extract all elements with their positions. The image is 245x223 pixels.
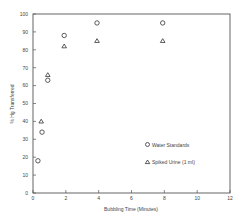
y-tick-label: 70 — [22, 65, 28, 71]
y-tick-label: 0 — [25, 190, 28, 196]
plot-frame — [33, 14, 230, 193]
x-tick-label: 12 — [227, 195, 233, 201]
triangle-marker-icon — [160, 39, 165, 43]
data-points — [36, 21, 165, 163]
x-tick-label: 4 — [97, 195, 100, 201]
circle-marker-icon — [160, 21, 164, 25]
x-axis-title: Bubbling Time (Minutes) — [104, 206, 158, 212]
x-tick-label: 10 — [194, 195, 200, 201]
y-axis-ticks: 0102030405060708090100 — [20, 11, 36, 196]
circle-marker-icon — [46, 78, 50, 82]
y-tick-label: 60 — [22, 82, 28, 88]
y-tick-label: 10 — [22, 172, 28, 178]
legend-label-spiked-urine: Spiked Urine (1 ml) — [152, 159, 195, 165]
circle-marker-icon — [95, 21, 99, 25]
circle-marker-icon — [40, 130, 44, 134]
legend-item-water-standards: Water Standards — [146, 142, 190, 148]
circle-marker-icon — [36, 159, 40, 163]
plot-border — [33, 14, 230, 193]
y-tick-label: 40 — [22, 118, 28, 124]
y-tick-label: 50 — [22, 100, 28, 106]
triangle-marker-icon — [39, 119, 44, 123]
x-tick-label: 6 — [130, 195, 133, 201]
scatter-chart: 0102030405060708090100 024681012 Bubblin… — [0, 0, 245, 223]
x-axis-ticks: 024681012 — [32, 190, 233, 201]
x-tick-label: 8 — [163, 195, 166, 201]
y-tick-label: 100 — [20, 11, 29, 17]
y-tick-label: 80 — [22, 47, 28, 53]
legend: Water Standards Spiked Urine (1 ml) — [145, 142, 195, 166]
y-axis-title: % Hg Transferred — [9, 84, 15, 123]
triangle-marker-icon — [95, 39, 100, 43]
y-tick-label: 20 — [22, 154, 28, 160]
circle-marker-icon — [62, 33, 66, 37]
x-tick-label: 2 — [64, 195, 67, 201]
legend-label-water-standards: Water Standards — [152, 142, 190, 148]
triangle-marker-icon — [45, 73, 50, 77]
y-tick-label: 90 — [22, 29, 28, 35]
triangle-marker-icon — [145, 160, 149, 164]
legend-item-spiked-urine: Spiked Urine (1 ml) — [145, 159, 195, 165]
y-tick-label: 30 — [22, 136, 28, 142]
circle-marker-icon — [146, 143, 150, 147]
x-tick-label: 0 — [32, 195, 35, 201]
triangle-marker-icon — [62, 44, 67, 48]
